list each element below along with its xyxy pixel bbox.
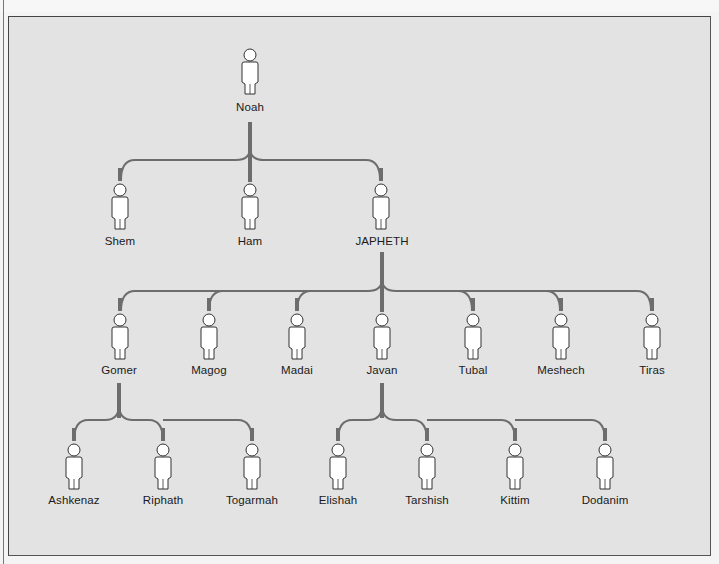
person-icon-kittim [507,444,523,489]
connector-gen2-bar [121,279,651,311]
node-label-gomer: Gomer [101,364,137,376]
person-icon-meshech [553,314,569,359]
person-icon-elishah [330,444,346,489]
person-icon-tarshish [419,444,435,489]
person-icon-togarmah [244,444,260,489]
person-icon-magog [201,314,217,359]
node-label-togarmah: Togarmah [226,494,278,506]
node-label-dodanim: Dodanim [582,494,629,506]
node-label-magog: Magog [191,364,227,376]
node-label-ham: Ham [238,235,263,247]
node-label-japheth: JAPHETH [355,235,408,247]
person-icon-javan [374,314,390,359]
person-icon-tubal [465,314,481,359]
person-icon-dodanim [597,444,613,489]
person-icon-ashkenaz [66,444,82,489]
node-label-madai: Madai [281,364,313,376]
node-label-noah: Noah [236,101,264,113]
node-label-tubal: Tubal [459,364,488,376]
node-label-tiras: Tiras [639,364,665,376]
node-label-tarshish: Tarshish [405,494,449,506]
person-icon-noah [242,49,258,94]
person-icon-madai [289,314,305,359]
node-label-riphath: Riphath [143,494,183,506]
node-label-kittim: Kittim [500,494,529,506]
person-icon-riphath [155,444,171,489]
person-icon-ham [242,184,258,229]
connector-gomer-bar [74,405,163,441]
person-icon-gomer [112,314,128,359]
person-icon-tiras [644,314,660,359]
connector-javan-bar [338,405,427,441]
person-icon-japheth [373,184,389,229]
node-label-ashkenaz: Ashkenaz [48,494,99,506]
node-label-meshech: Meshech [537,364,584,376]
node-label-elishah: Elishah [319,494,357,506]
tree-connectors [0,0,719,564]
node-label-javan: Javan [366,364,397,376]
person-icon-shem [112,184,128,229]
node-label-shem: Shem [105,235,135,247]
